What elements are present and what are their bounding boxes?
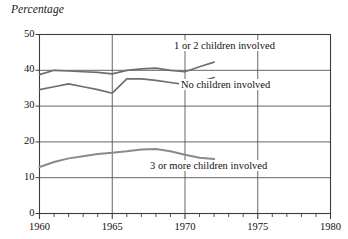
- y-axis-tick-label: 30: [7, 99, 35, 110]
- x-axis-tick-label: 1965: [89, 221, 135, 232]
- series-annotation-label: 1 or 2 children involved: [172, 40, 277, 51]
- y-axis-tick-label: 20: [7, 135, 35, 146]
- x-axis-tick-label: 1960: [17, 221, 63, 232]
- y-axis-tick-label: 50: [7, 28, 35, 39]
- x-axis-tick-label: 1980: [308, 221, 348, 232]
- chart-plot-area: [0, 0, 348, 239]
- y-axis-tick-label: 40: [7, 63, 35, 74]
- x-axis-tick-label: 1975: [235, 221, 281, 232]
- x-axis-tick-label: 1970: [162, 221, 208, 232]
- data-series-line: [40, 62, 215, 75]
- series-annotation-label: No children involved: [179, 79, 272, 90]
- series-annotation-label: 3 or more children involved: [148, 160, 269, 171]
- chart-container: Percentage 01020304050196019651970197519…: [0, 0, 348, 239]
- y-axis-tick-label: 0: [7, 207, 35, 218]
- y-axis-tick-label: 10: [7, 171, 35, 182]
